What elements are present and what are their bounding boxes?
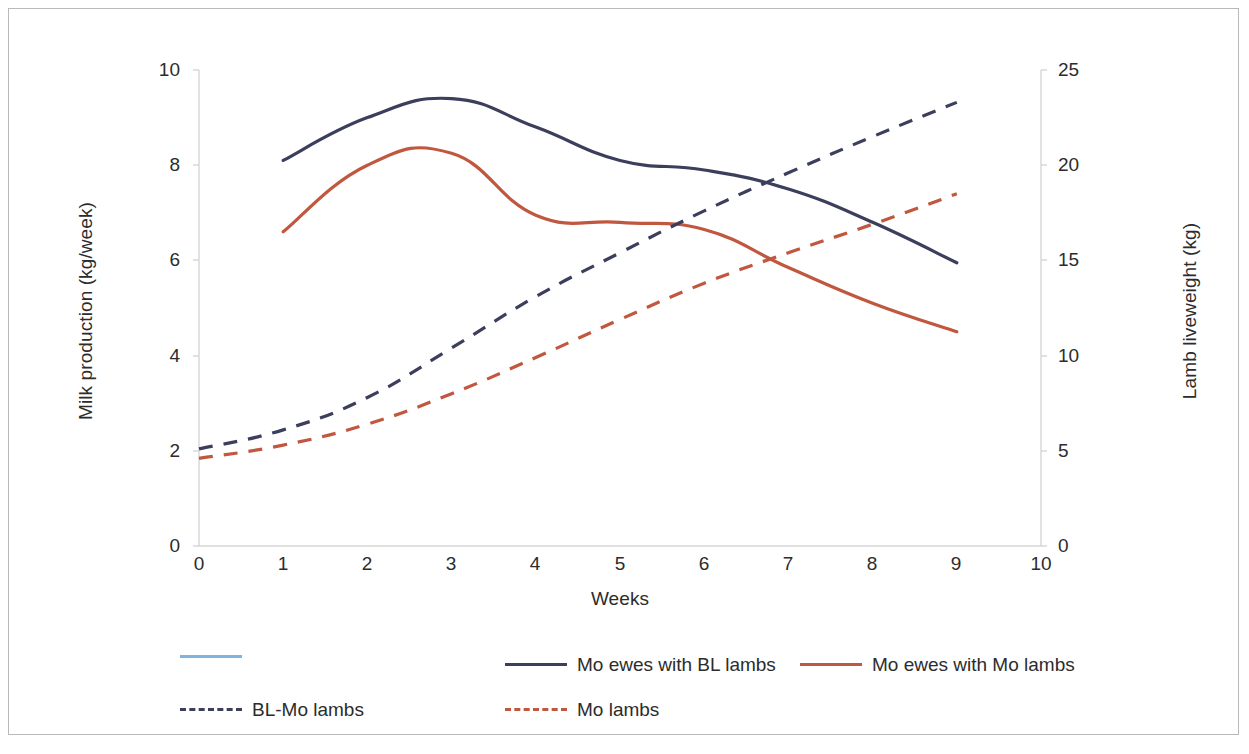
y-axis-right-tick-15: 15: [1058, 249, 1098, 271]
y-axis-left-tick-6: 6: [140, 249, 180, 271]
chart-legend: Mo ewes with BL lambs Mo ewes with Mo la…: [150, 645, 1150, 725]
tick-marks: [193, 70, 1047, 546]
y-axis-right-tick-25: 25: [1058, 59, 1098, 81]
legend-entry-mo-lambs[interactable]: Mo lambs: [505, 700, 659, 719]
x-axis-tick-10: 10: [1021, 553, 1061, 575]
x-axis-tick-4: 4: [515, 553, 555, 575]
y-axis-left-tick-8: 8: [140, 154, 180, 176]
x-axis-tick-0: 0: [179, 553, 219, 575]
legend-entry-unlabeled[interactable]: [180, 655, 252, 658]
legend-entry-bl-mo-lambs[interactable]: BL-Mo lambs: [180, 700, 364, 719]
x-axis-tick-6: 6: [684, 553, 724, 575]
y-axis-left-tick-2: 2: [140, 440, 180, 462]
legend-swatch-unlabeled: [180, 655, 242, 658]
legend-label-mo-lambs: Mo lambs: [577, 700, 659, 719]
legend-swatch-mo-ewes-with-mo-lambs: [800, 663, 862, 666]
x-axis-tick-9: 9: [936, 553, 976, 575]
legend-label-mo-ewes-with-mo-lambs: Mo ewes with Mo lambs: [872, 655, 1075, 674]
x-axis-tick-8: 8: [852, 553, 892, 575]
legend-swatch-bl-mo-lambs: [180, 708, 242, 711]
y-axis-left-tick-4: 4: [140, 345, 180, 367]
series-paths: [199, 98, 957, 458]
y-axis-right-tick-10: 10: [1058, 345, 1098, 367]
y-axis-left-tick-0: 0: [140, 535, 180, 557]
legend-label-mo-ewes-with-bl-lambs: Mo ewes with BL lambs: [577, 655, 776, 674]
chart-plot-area: [0, 0, 1249, 754]
y-axis-right-tick-0: 0: [1058, 535, 1098, 557]
legend-entry-mo-ewes-with-bl-lambs[interactable]: Mo ewes with BL lambs: [505, 655, 776, 674]
x-axis-tick-7: 7: [768, 553, 808, 575]
legend-entry-mo-ewes-with-mo-lambs[interactable]: Mo ewes with Mo lambs: [800, 655, 1075, 674]
x-axis-title: Weeks: [199, 588, 1041, 610]
x-axis-tick-1: 1: [263, 553, 303, 575]
x-axis-tick-3: 3: [431, 553, 471, 575]
legend-label-bl-mo-lambs: BL-Mo lambs: [252, 700, 364, 719]
x-axis-tick-5: 5: [600, 553, 640, 575]
y-axis-left-tick-10: 10: [140, 59, 180, 81]
y-axis-left-title: Milk production (kg/week): [75, 161, 97, 461]
y-axis-right-tick-20: 20: [1058, 154, 1098, 176]
y-axis-right-tick-5: 5: [1058, 440, 1098, 462]
axis-lines: [199, 70, 1041, 546]
legend-swatch-mo-ewes-with-bl-lambs: [505, 663, 567, 666]
x-axis-tick-2: 2: [347, 553, 387, 575]
series-line-mo-lambs: [199, 194, 957, 459]
series-line-bl-mo-lambs: [199, 102, 957, 449]
series-line-mo-ewes-with-mo-lambs: [283, 148, 957, 332]
legend-swatch-mo-lambs: [505, 708, 567, 711]
y-axis-right-title: Lamb liveweight (kg): [1179, 161, 1201, 461]
series-line-mo-ewes-with-bl-lambs: [283, 98, 957, 263]
